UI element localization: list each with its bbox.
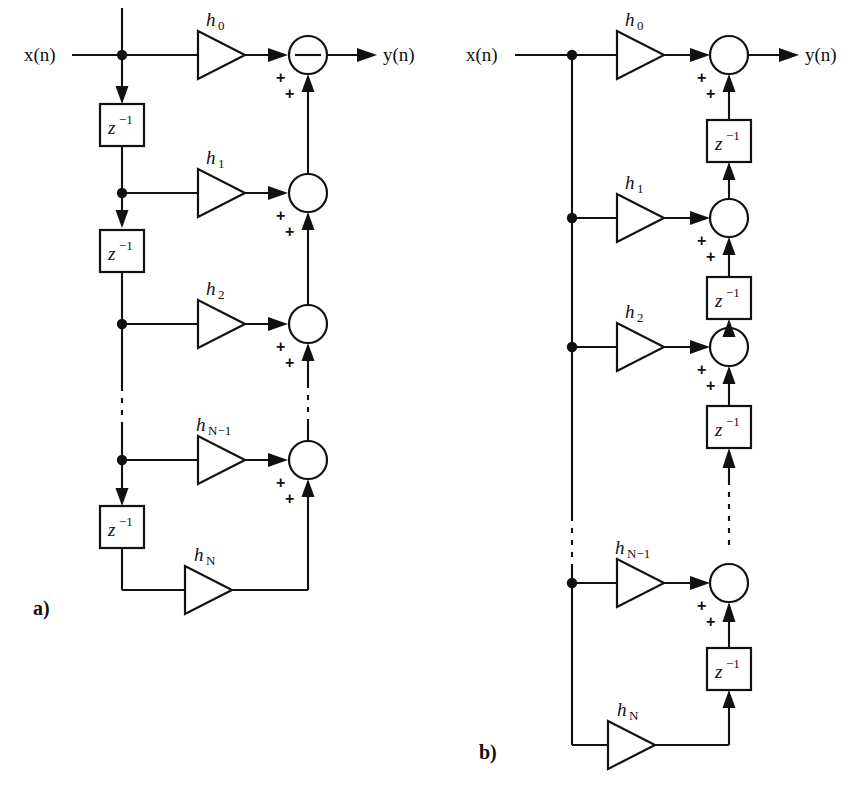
panel-a-delay-3-label: z — [107, 519, 116, 540]
panel-a-adder-3-sign-left: + — [276, 474, 285, 491]
panel-b-caption: b) — [479, 741, 497, 764]
figure-canvas: x(n) z −1 z −1 — [0, 0, 865, 789]
panel-b-adder-2-sign-left: + — [697, 361, 706, 378]
panel-a-adder-0-sign-bottom: + — [285, 85, 294, 102]
panel-b-delay-1-exp: −1 — [726, 128, 740, 143]
panel-b-adder-2-sign-bottom: + — [706, 377, 715, 394]
panel-b-adder-3-sign-bottom: + — [706, 613, 715, 630]
panel-b-gain-hn1-sub: N−1 — [627, 546, 650, 561]
panel-b-delay-2-exp: −1 — [726, 285, 740, 300]
panel-a-delay-1-exp: −1 — [119, 112, 133, 127]
panel-a-gain-h1-sub: 1 — [218, 156, 225, 171]
panel-a-delay-2-exp: −1 — [119, 238, 133, 253]
panel-b-delay-3-label: z — [714, 419, 723, 440]
panel-a-input-label: x(n) — [24, 44, 56, 66]
panel-b-gain-h0-label: h — [625, 9, 635, 30]
panel-a-adder-3 — [289, 441, 327, 479]
panel-a-gain-h2-label: h — [206, 278, 216, 299]
panel-a-adder-2 — [289, 305, 327, 343]
panel-b-delay-4-exp: −1 — [726, 656, 740, 671]
panel-b-gain-hn1-label: h — [615, 537, 625, 558]
panel-b-adder-1-sign-bottom: + — [706, 248, 715, 265]
panel-b-adder-1-sign-left: + — [697, 232, 706, 249]
panel-a-delay-1-label: z — [107, 117, 116, 138]
panel-a-adder-1 — [289, 174, 327, 212]
panel-b-gain-hn-label: h — [617, 699, 627, 720]
panel-a-gain-hn1-sub: N−1 — [208, 423, 231, 438]
panel-a-gain-hn1-label: h — [196, 414, 206, 435]
panel-a-adder-1-sign-left: + — [276, 207, 285, 224]
panel-b-delay-2-label: z — [714, 290, 723, 311]
panel-a-gain-hn-sub: N — [206, 553, 216, 568]
panel-a-adder-2-sign-left: + — [276, 338, 285, 355]
panel-a-delay-3-exp: −1 — [119, 514, 133, 529]
panel-b-gain-h0-sub: 0 — [637, 18, 644, 33]
panel-a-gain-h0-sub: 0 — [218, 18, 225, 33]
panel-b-gain-h2-sub: 2 — [637, 310, 644, 325]
panel-b-adder-0-sign-left: + — [697, 69, 706, 86]
panel-a-adder-2-sign-bottom: + — [285, 354, 294, 371]
panel-b-input-label: x(n) — [466, 44, 498, 66]
panel-b-adder-3-sign-left: + — [697, 597, 706, 614]
fir-filter-figure: x(n) z −1 z −1 — [0, 0, 865, 789]
panel-a-gain-hn-label: h — [194, 544, 204, 565]
panel-a-output-label: y(n) — [383, 44, 415, 66]
panel-a-delay-2-label: z — [107, 243, 116, 264]
panel-b-adder-1 — [710, 199, 748, 237]
panel-b-gain-h1-label: h — [625, 172, 635, 193]
panel-a-gain-h1-label: h — [206, 147, 216, 168]
panel-a-gain-h0-label: h — [206, 9, 216, 30]
panel-b-gain-h2-label: h — [625, 301, 635, 322]
panel-a-adder-1-sign-bottom: + — [285, 223, 294, 240]
panel-b-gain-h1-sub: 1 — [637, 181, 644, 196]
panel-a-gain-h2-sub: 2 — [218, 287, 225, 302]
panel-b-adder-0-sign-bottom: + — [706, 85, 715, 102]
panel-a-adder-0-sign-left: + — [276, 69, 285, 86]
panel-b-delay-1-label: z — [714, 133, 723, 154]
panel-b-delay-3-exp: −1 — [726, 414, 740, 429]
panel-b-adder-0 — [710, 36, 748, 74]
panel-b-output-label: y(n) — [805, 44, 837, 66]
panel-b-delay-4-label: z — [714, 661, 723, 682]
panel-a-caption: a) — [33, 597, 50, 620]
panel-b-adder-3 — [710, 564, 748, 602]
panel-b-gain-hn-sub: N — [629, 708, 639, 723]
panel-a-adder-3-sign-bottom: + — [285, 490, 294, 507]
